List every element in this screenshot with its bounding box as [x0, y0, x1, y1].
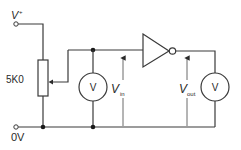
- voltmeter-out-label: V: [212, 82, 219, 93]
- potentiometer-label: 5K0: [6, 74, 24, 85]
- voltmeter-in-label: V: [90, 82, 97, 93]
- voltmeter-out: V: [201, 73, 229, 127]
- ground-rail: 0V: [11, 125, 215, 143]
- junction-dot: [41, 125, 46, 130]
- junction-dot: [91, 125, 96, 130]
- v-out-subscript: out: [187, 91, 196, 97]
- v-out-indicator: V out: [176, 58, 200, 126]
- supply-superscript: +: [19, 9, 23, 15]
- supply-terminal: V +: [11, 9, 43, 60]
- potentiometer: 5K0: [6, 50, 68, 127]
- inverter-gate-icon: [143, 34, 176, 67]
- voltmeter-in: V: [79, 50, 107, 127]
- v-in-label: V: [111, 82, 120, 96]
- v-in-subscript: in: [120, 91, 125, 97]
- wiper-arrow-icon: [49, 80, 54, 85]
- v-in-indicator: V in: [110, 58, 132, 126]
- ground-label: 0V: [11, 131, 25, 143]
- output-wire: [176, 51, 215, 73]
- circuit-diagram: V + 5K0 V V in V out: [0, 0, 241, 150]
